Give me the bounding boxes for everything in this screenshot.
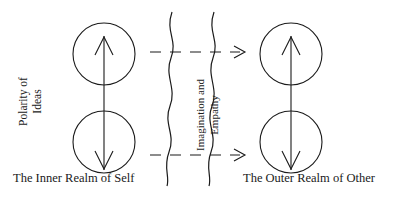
outer-polarity-axis	[282, 36, 300, 170]
boundary-label-line2: Empathy	[207, 60, 221, 170]
boundary-wave-left	[166, 12, 173, 186]
upper-crossing-arrow	[150, 46, 245, 58]
polarity-axis-label: Polarity of Ideas	[17, 54, 44, 150]
polarity-axis-label-line2: Ideas	[30, 54, 44, 150]
caption-outer-realm: The Outer Realm of Other	[243, 171, 375, 186]
polarity-axis-label-line1: Polarity of	[17, 54, 31, 150]
inner-polarity-axis	[95, 36, 113, 170]
boundary-label: Imagination and Empathy	[193, 60, 221, 170]
polarity-of-ideas-diagram: Polarity of Ideas Imagination and Empath…	[0, 0, 402, 208]
boundary-label-line1: Imagination and	[193, 60, 207, 170]
caption-inner-realm: The Inner Realm of Self	[13, 171, 134, 186]
